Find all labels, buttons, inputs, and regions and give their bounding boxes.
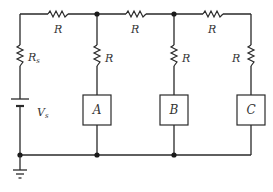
junction-dot-bottom-2 xyxy=(171,152,176,157)
load-b-label: B xyxy=(169,103,179,117)
series-resistor-1-label: R xyxy=(53,23,62,36)
shunt-resistor-b-label: R xyxy=(181,52,190,65)
junction-dot-top-1 xyxy=(94,11,99,16)
junction-dot-top-2 xyxy=(171,11,176,16)
series-resistor-3 xyxy=(203,11,223,17)
series-resistor-2-label: R xyxy=(130,23,139,36)
shunt-resistor-a xyxy=(94,45,100,66)
series-resistor-3-label: R xyxy=(207,23,216,36)
shunt-resistor-a-label: R xyxy=(104,52,113,65)
source-voltage-label: Vs xyxy=(37,106,49,120)
source-resistor-label: Rs xyxy=(27,51,40,65)
load-a-label: A xyxy=(92,103,102,117)
shunt-resistor-b xyxy=(171,45,177,66)
shunt-resistor-c-label: R xyxy=(231,52,240,65)
shunt-resistor-c xyxy=(248,45,254,66)
circuit-diagram: R R R Rs Vs R A R B R C xyxy=(0,0,273,192)
series-resistor-1 xyxy=(48,11,68,17)
source-resistor xyxy=(17,45,23,66)
load-c-label: C xyxy=(246,103,255,117)
series-resistor-2 xyxy=(126,11,146,17)
junction-dot-bottom-1 xyxy=(94,152,99,157)
ground-icon xyxy=(13,155,27,178)
